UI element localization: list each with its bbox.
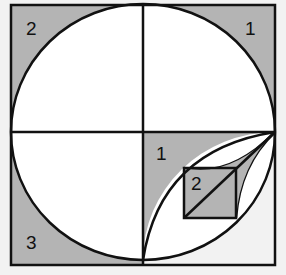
geometry-figure: 2 1 3 1 2 xyxy=(0,0,286,275)
diagram: 2 1 3 1 2 xyxy=(0,0,286,275)
label-top-right: 1 xyxy=(245,18,256,39)
label-center-right: 1 xyxy=(156,143,167,164)
label-bottom-left: 3 xyxy=(26,232,37,253)
label-top-left: 2 xyxy=(26,18,37,39)
label-inner-square: 2 xyxy=(191,173,202,194)
